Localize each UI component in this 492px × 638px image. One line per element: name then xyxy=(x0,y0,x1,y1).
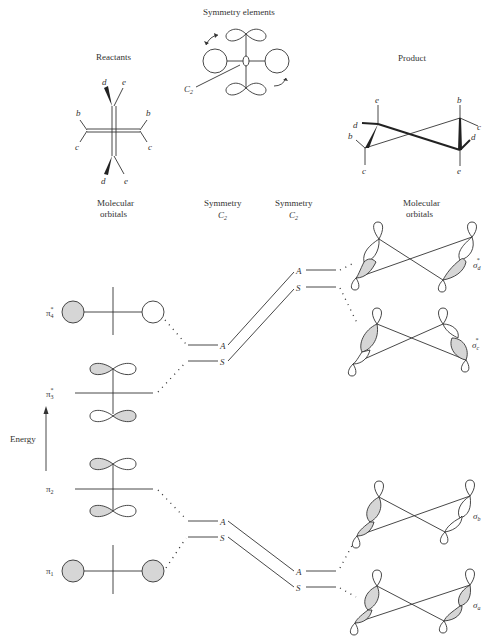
level-S-upper-left: S xyxy=(220,357,225,367)
correlation-lines xyxy=(228,272,294,587)
level-A-upper-left: A xyxy=(219,341,226,351)
label-pi4-star: π4* xyxy=(46,306,54,319)
product-label-b2: b xyxy=(457,95,462,105)
product-label-e1: e xyxy=(375,95,379,105)
label-pi3-star: π3* xyxy=(46,387,54,400)
label-e-bottom: e xyxy=(124,176,128,186)
energy-axis: Energy xyxy=(10,406,49,471)
product-label-e2: e xyxy=(457,166,461,176)
orbital-pi4-star: π4* xyxy=(46,287,164,335)
label-pi1: π1 xyxy=(46,566,54,577)
product-label-d1: d xyxy=(353,120,358,130)
orbital-pi1: π1 xyxy=(46,545,164,594)
orbital-pi3-star: π3* xyxy=(46,363,153,421)
symmetry-elements-figure: C2 xyxy=(184,29,289,95)
energy-label: Energy xyxy=(10,434,36,444)
label-c-right: c xyxy=(148,142,152,152)
label-sigma-c-star: σc* xyxy=(472,337,479,351)
orbital-sigma-c-star: σc* xyxy=(348,308,479,376)
label-d-top: d xyxy=(102,77,107,87)
level-A-lower-left: A xyxy=(219,517,226,527)
label-sigma-b: σb xyxy=(473,511,480,522)
level-A-lower-right: A xyxy=(295,567,302,577)
left-mo-heading: Molecular xyxy=(97,198,134,208)
symmetry-right-c2: C2 xyxy=(289,210,298,221)
heading-symmetry-elements: Symmetry elements xyxy=(203,7,275,17)
label-pi2: π2 xyxy=(46,484,54,495)
level-A-upper-right: A xyxy=(295,266,302,276)
symmetry-right-heading: Symmetry xyxy=(275,198,313,208)
c2-axis-label: C2 xyxy=(184,84,193,95)
level-S-upper-right: S xyxy=(296,283,301,293)
left-mo-heading-2: orbitals xyxy=(100,209,127,219)
right-mo-heading: Molecular xyxy=(403,198,440,208)
orbital-sigma-d-star: σd* xyxy=(351,222,481,292)
level-S-lower-right: S xyxy=(296,583,301,593)
orbital-sigma-a: σa xyxy=(350,569,480,635)
product-label-c1: c xyxy=(362,166,366,176)
orbital-sigma-b: σb xyxy=(352,480,480,548)
product-label-d2: d xyxy=(471,132,476,142)
label-e-top: e xyxy=(122,77,126,87)
symmetry-left-c2: C2 xyxy=(218,210,227,221)
label-sigma-a: σa xyxy=(473,600,480,611)
heading-product: Product xyxy=(398,53,426,63)
product-label-b1: b xyxy=(348,131,353,141)
symmetry-left-heading: Symmetry xyxy=(204,198,242,208)
label-b-left: b xyxy=(76,108,81,118)
level-S-lower-left: S xyxy=(220,533,225,543)
left-levels-upper: A S xyxy=(188,341,226,367)
label-b-right: b xyxy=(146,108,151,118)
right-levels-upper: A S xyxy=(295,266,336,293)
label-sigma-d-star: σd* xyxy=(473,257,481,271)
reactants-structure: d e b c b c d e xyxy=(75,77,152,186)
heading-reactants: Reactants xyxy=(96,52,131,62)
orbital-pi2: π2 xyxy=(46,458,153,516)
product-label-c2: c xyxy=(477,122,481,132)
label-c-left: c xyxy=(75,142,79,152)
product-structure: e d b c b c d e xyxy=(348,95,481,176)
label-d-bottom: d xyxy=(101,176,106,186)
left-levels-lower: A S xyxy=(188,517,226,543)
right-mo-heading-2: orbitals xyxy=(406,209,433,219)
correlation-diagram: Reactants Symmetry elements Product d e … xyxy=(0,0,492,638)
right-levels-lower: A S xyxy=(295,567,336,593)
